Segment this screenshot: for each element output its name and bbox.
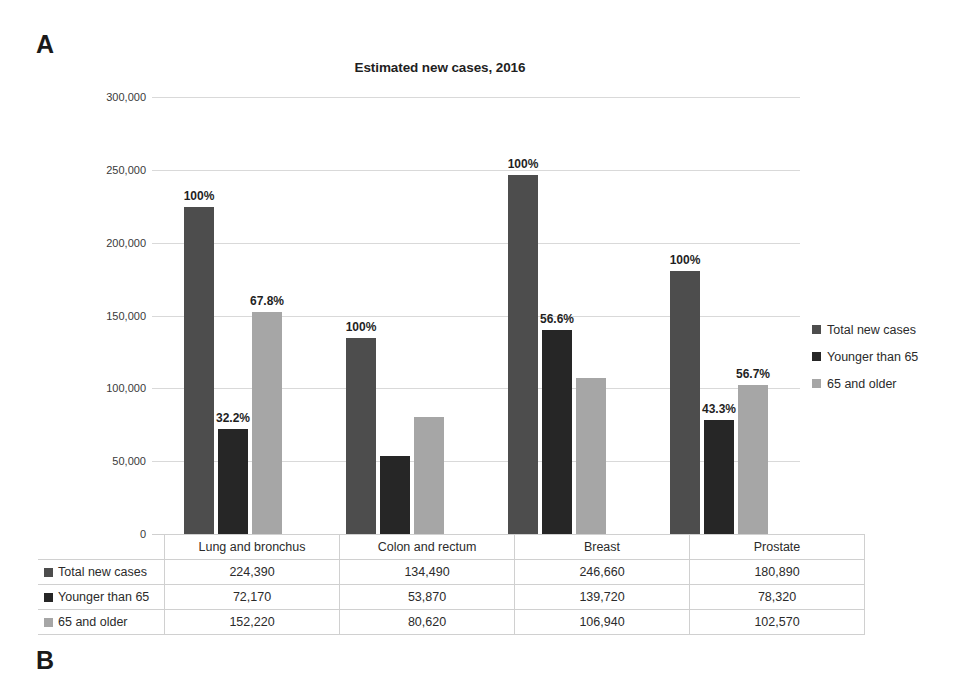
bar[interactable]: [414, 417, 444, 534]
table-row-label: 65 and older: [58, 615, 128, 629]
bar[interactable]: [738, 385, 768, 534]
bar[interactable]: [346, 338, 376, 534]
bar[interactable]: [508, 175, 538, 534]
table-row-swatch-icon: [44, 593, 53, 602]
bar-group: 100%56.6%: [476, 97, 638, 534]
table-row-header: 65 and older: [38, 610, 165, 635]
table-cell: 152,220: [165, 610, 340, 635]
y-axis-tick-label: 150,000: [74, 310, 146, 322]
y-axis-tick-label: 50,000: [74, 455, 146, 467]
y-axis-tick-label: 250,000: [74, 164, 146, 176]
panel-label-b: B: [36, 646, 54, 675]
table-cell: 246,660: [515, 560, 690, 585]
table-row: Younger than 6572,17053,870139,72078,320: [38, 585, 865, 610]
table-cell: 53,870: [340, 585, 515, 610]
table-cell: 139,720: [515, 585, 690, 610]
table-column-header: Colon and rectum: [340, 535, 515, 560]
bar-value-label: 100%: [654, 253, 716, 267]
chart-legend: Total new casesYounger than 6565 and old…: [812, 316, 952, 397]
table-cell: 78,320: [690, 585, 865, 610]
y-axis: 050,000100,000150,000200,000250,000300,0…: [66, 97, 146, 534]
legend-item-label: 65 and older: [827, 377, 897, 391]
legend-swatch-icon: [812, 379, 821, 388]
bar[interactable]: [218, 429, 248, 534]
table-row-swatch-icon: [44, 568, 53, 577]
table-column-header: Prostate: [690, 535, 865, 560]
bar-value-label: 67.8%: [236, 294, 298, 308]
bar[interactable]: [380, 456, 410, 534]
bar-value-label: 56.6%: [526, 312, 588, 326]
table-row-swatch-icon: [44, 618, 53, 627]
legend-item-label: Total new cases: [827, 323, 916, 337]
table-row-label: Younger than 65: [58, 590, 149, 604]
legend-item[interactable]: Total new cases: [812, 316, 952, 343]
table-cell: 224,390: [165, 560, 340, 585]
table-cell: 134,490: [340, 560, 515, 585]
bar[interactable]: [576, 378, 606, 534]
bar[interactable]: [252, 312, 282, 534]
bar-group: 100%: [314, 97, 476, 534]
bar-group: 100%43.3%56.7%: [638, 97, 800, 534]
table-column-header: Lung and bronchus: [165, 535, 340, 560]
table-corner-cell: [38, 535, 165, 560]
table-cell: 106,940: [515, 610, 690, 635]
bar[interactable]: [184, 207, 214, 534]
table-column-header: Breast: [515, 535, 690, 560]
data-table-body: Lung and bronchusColon and rectumBreastP…: [38, 535, 865, 635]
table-row-header: Younger than 65: [38, 585, 165, 610]
y-axis-tick-label: 200,000: [74, 237, 146, 249]
bar[interactable]: [542, 330, 572, 534]
table-cell: 80,620: [340, 610, 515, 635]
bar-value-label: 100%: [330, 320, 392, 334]
table-row: 65 and older152,22080,620106,940102,570: [38, 610, 865, 635]
plot-area: 100%32.2%67.8%100%100%56.6%100%43.3%56.7…: [152, 97, 800, 534]
data-table: Lung and bronchusColon and rectumBreastP…: [38, 534, 865, 635]
table-cell: 180,890: [690, 560, 865, 585]
legend-item[interactable]: 65 and older: [812, 370, 952, 397]
bar[interactable]: [704, 420, 734, 534]
y-axis-tick-label: 300,000: [74, 91, 146, 103]
table-row-header: Total new cases: [38, 560, 165, 585]
legend-swatch-icon: [812, 325, 821, 334]
legend-item[interactable]: Younger than 65: [812, 343, 952, 370]
table-row-label: Total new cases: [58, 565, 147, 579]
table-row: Total new cases224,390134,490246,660180,…: [38, 560, 865, 585]
table-cell: 72,170: [165, 585, 340, 610]
legend-swatch-icon: [812, 352, 821, 361]
bar-value-label: 56.7%: [722, 367, 784, 381]
figure-panel-a: Estimated new cases, 2016 050,000100,000…: [0, 0, 959, 640]
table-header-row: Lung and bronchusColon and rectumBreastP…: [38, 535, 865, 560]
table-cell: 102,570: [690, 610, 865, 635]
y-axis-tick-label: 100,000: [74, 382, 146, 394]
legend-item-label: Younger than 65: [827, 350, 918, 364]
bar-value-label: 100%: [492, 157, 554, 171]
bar-group: 100%32.2%67.8%: [152, 97, 314, 534]
bar-value-label: 100%: [168, 189, 230, 203]
chart-title: Estimated new cases, 2016: [230, 60, 650, 75]
